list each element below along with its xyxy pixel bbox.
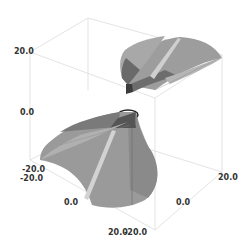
upper-cone bbox=[120, 36, 222, 92]
x-tick-mid: 0.0 bbox=[64, 198, 78, 207]
y-tick-mid: 0.0 bbox=[176, 198, 190, 207]
x-tick-left: -20.0 bbox=[20, 174, 43, 183]
y-tick-right: 20.0 bbox=[218, 173, 238, 182]
z-tick-bottom: -20.0 bbox=[22, 165, 45, 174]
y-tick-left: -20.0 bbox=[124, 228, 147, 237]
z-tick-top: 20.0 bbox=[14, 47, 34, 56]
surface-plot bbox=[0, 0, 250, 245]
z-tick-mid: 0.0 bbox=[20, 108, 34, 117]
lower-cone bbox=[40, 112, 158, 208]
